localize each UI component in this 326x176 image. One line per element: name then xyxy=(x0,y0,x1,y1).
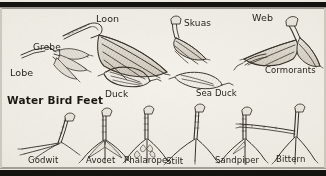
frame-edge-left xyxy=(0,8,2,168)
bird-feet-artwork xyxy=(0,0,326,176)
label-stilt: Stilt xyxy=(166,157,183,166)
label-sea-duck: Sea Duck xyxy=(196,89,237,98)
label-web: Web xyxy=(252,13,273,23)
label-bittern: Bittern xyxy=(276,155,306,164)
scan-band-bottom xyxy=(0,170,326,176)
label-cormorants: Cormorants xyxy=(265,66,316,75)
label-grebe: Grebe xyxy=(33,43,61,52)
scan-band-bottom-soft xyxy=(0,167,326,169)
label-loon: Loon xyxy=(96,14,119,24)
illustration-plate: Water Bird Feet Loon Skuas Web Grebe Lob… xyxy=(0,0,326,176)
plate-title: Water Bird Feet xyxy=(7,95,103,106)
label-avocet: Avocet xyxy=(86,156,115,165)
label-lobe: Lobe xyxy=(10,68,33,78)
label-sandpiper: Sandpiper xyxy=(215,156,259,165)
label-duck: Duck xyxy=(105,90,128,99)
label-phalarope: Phalarope xyxy=(124,156,167,165)
scan-band-top-soft xyxy=(0,7,326,9)
label-skuas: Skuas xyxy=(184,19,211,28)
label-godwit: Godwit xyxy=(28,156,58,165)
